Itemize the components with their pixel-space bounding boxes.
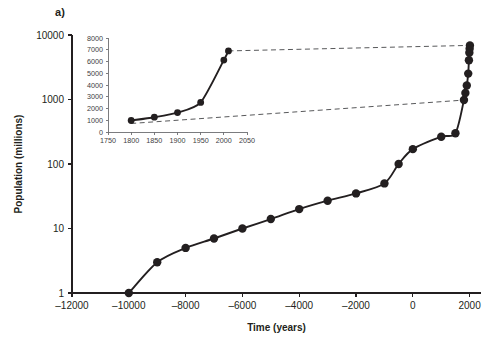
data-point [409, 145, 417, 153]
inset-y-tick-label: 5000 [87, 69, 103, 78]
data-point [394, 160, 402, 168]
data-point [181, 244, 189, 252]
inset-population-line [131, 51, 228, 121]
x-tick-label: ‒8000 [172, 300, 200, 311]
inset-population-markers [128, 48, 232, 124]
x-axis-ticks: ‒12000‒10000‒8000‒6000‒4000‒200002000 [55, 293, 481, 311]
population-markers [125, 41, 475, 297]
data-point [153, 258, 161, 266]
inset-top-connector [228, 45, 469, 51]
data-point [463, 81, 471, 89]
inset-x-tick-label: 1850 [146, 136, 162, 145]
data-point [323, 196, 331, 204]
inset-y-tick-label: 6000 [87, 57, 103, 66]
data-point [267, 215, 275, 223]
y-tick-label: 1 [58, 288, 64, 299]
y-tick-label: 100 [47, 159, 64, 170]
inset-data-point [225, 48, 232, 55]
inset-data-point [128, 117, 135, 124]
data-point [461, 89, 469, 97]
population-line [129, 45, 470, 293]
x-tick-label: 0 [410, 300, 416, 311]
data-point [460, 96, 468, 104]
data-point [210, 234, 218, 242]
y-tick-label: 10000 [36, 30, 64, 41]
x-axis-title: Time (years) [247, 322, 306, 333]
x-tick-label: ‒10000 [112, 300, 146, 311]
data-point [451, 129, 459, 137]
data-point [380, 179, 388, 187]
inset-data-point [197, 99, 204, 106]
inset-y-tick-label: 8000 [87, 34, 103, 43]
data-point [295, 205, 303, 213]
y-axis-title: Population (millions) [13, 115, 24, 214]
inset-y-tick-label: 7000 [87, 45, 103, 54]
y-axis-ticks: 110100100010000 [36, 30, 72, 299]
inset-x-tick-label: 1800 [123, 136, 139, 145]
figure-panel-a: a) 110100100010000 ‒12000‒10000‒8000‒600… [0, 0, 494, 348]
inset-y-tick-label: 3000 [87, 92, 103, 101]
inset-y-tick-label: 2000 [87, 104, 103, 113]
data-point [238, 224, 246, 232]
inset-x-tick-label: 1900 [170, 136, 186, 145]
inset-y-axis-ticks: 010002000300040005000600070008000 [87, 34, 108, 137]
x-tick-label: ‒12000 [55, 300, 89, 311]
inset-y-tick-label: 1000 [87, 116, 103, 125]
x-tick-label: 2000 [459, 300, 482, 311]
x-tick-label: ‒2000 [342, 300, 370, 311]
main-series-group [125, 41, 475, 297]
inset-x-tick-label: 1750 [100, 136, 116, 145]
x-tick-label: ‒6000 [229, 300, 257, 311]
inset-data-point [174, 109, 181, 116]
y-tick-label: 10 [53, 223, 65, 234]
inset-x-tick-label: 2000 [216, 136, 232, 145]
inset-data-point [151, 114, 158, 121]
y-tick-label: 1000 [42, 94, 65, 105]
inset-data-point [220, 57, 227, 64]
inset-x-tick-label: 2050 [239, 136, 255, 145]
inset-x-axis-ticks: 1750180018501900195020002050 [100, 132, 255, 145]
inset-chart: 010002000300040005000600070008000 175018… [87, 34, 255, 145]
data-point [465, 56, 473, 64]
data-point [466, 41, 474, 49]
inset-y-tick-label: 4000 [87, 81, 103, 90]
data-point [464, 69, 472, 77]
population-log-chart: 110100100010000 ‒12000‒10000‒8000‒6000‒4… [0, 0, 494, 348]
inset-x-tick-label: 1950 [193, 136, 209, 145]
data-point [437, 133, 445, 141]
data-point [352, 189, 360, 197]
data-point [125, 289, 133, 297]
x-tick-label: ‒4000 [285, 300, 313, 311]
